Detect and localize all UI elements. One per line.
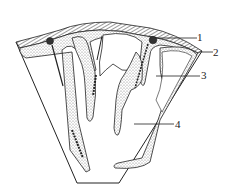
follicle-left [47,38,54,45]
diagram-drawing [0,0,233,193]
label-4: 4 [175,119,181,130]
lobule-cross-section-diagram: 1 2 3 4 [0,0,233,193]
label-1: 1 [197,32,203,43]
label-3: 3 [201,70,207,81]
follicle-right [149,36,157,44]
label-2: 2 [213,47,219,58]
